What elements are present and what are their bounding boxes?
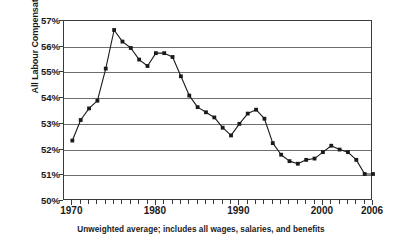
x-tick-label: 1980	[144, 205, 166, 216]
x-tick-mark	[96, 200, 97, 204]
x-tick-mark	[105, 200, 106, 204]
plot-area	[63, 20, 372, 200]
y-tick-label: 50%	[41, 195, 60, 206]
data-point-marker	[346, 150, 350, 154]
x-tick-mark	[288, 200, 289, 204]
x-tick-mark	[355, 200, 356, 204]
data-point-marker	[154, 51, 158, 55]
chart-figure: All Labour Compensation (% GDP) 57%56%55…	[0, 0, 402, 248]
data-point-marker	[146, 64, 150, 68]
x-tick-mark	[364, 200, 365, 204]
x-tick-mark	[180, 200, 181, 204]
x-tick-mark	[188, 200, 189, 204]
data-point-marker	[70, 139, 74, 143]
data-point-marker	[288, 159, 292, 163]
y-tick-label: 54%	[41, 92, 60, 103]
x-tick-mark	[305, 200, 306, 204]
data-series-line	[64, 21, 373, 201]
x-tick-mark	[330, 200, 331, 204]
data-point-marker	[304, 158, 308, 162]
data-point-marker	[179, 74, 183, 78]
x-tick-mark	[80, 200, 81, 204]
x-tick-mark	[263, 200, 264, 204]
x-tick-mark	[138, 200, 139, 204]
x-tick-mark	[213, 200, 214, 204]
data-point-marker	[229, 134, 233, 138]
x-tick-mark	[163, 200, 164, 204]
data-point-marker	[196, 105, 200, 109]
y-axis-title: All Labour Compensation (% GDP)	[28, 0, 42, 114]
data-point-marker	[171, 55, 175, 59]
x-tick-label: 2000	[311, 205, 333, 216]
x-tick-mark	[255, 200, 256, 204]
data-point-marker	[313, 157, 317, 161]
x-tick-label: 1970	[60, 205, 82, 216]
data-point-marker	[162, 51, 166, 55]
data-point-marker	[221, 126, 225, 130]
data-point-marker	[354, 158, 358, 162]
data-point-marker	[338, 148, 342, 152]
series-path	[72, 30, 373, 174]
data-point-marker	[87, 107, 91, 111]
x-tick-mark	[130, 200, 131, 204]
x-tick-mark	[172, 200, 173, 204]
chart-caption: Unweighted average; includes all wages, …	[0, 225, 402, 234]
data-point-marker	[321, 150, 325, 154]
data-point-marker	[137, 58, 141, 62]
x-tick-mark	[297, 200, 298, 204]
x-tick-mark	[314, 200, 315, 204]
x-tick-mark	[280, 200, 281, 204]
y-tick-label: 53%	[41, 117, 60, 128]
y-tick-label: 56%	[41, 40, 60, 51]
x-tick-mark	[247, 200, 248, 204]
x-tick-mark	[113, 200, 114, 204]
x-tick-label: 2006	[361, 205, 383, 216]
data-point-marker	[212, 116, 216, 120]
y-tick-label: 55%	[41, 66, 60, 77]
x-tick-label: 1990	[227, 205, 249, 216]
x-tick-mark	[121, 200, 122, 204]
data-point-marker	[79, 118, 83, 122]
data-point-marker	[271, 141, 275, 145]
x-tick-mark	[88, 200, 89, 204]
data-point-marker	[104, 67, 108, 71]
data-point-marker	[237, 122, 241, 126]
y-tick-label: 51%	[41, 169, 60, 180]
x-tick-mark	[230, 200, 231, 204]
x-tick-mark	[347, 200, 348, 204]
y-tick-label: 57%	[41, 15, 60, 26]
data-point-marker	[204, 110, 208, 114]
x-tick-mark	[339, 200, 340, 204]
data-point-marker	[263, 117, 267, 121]
data-point-marker	[363, 172, 367, 176]
data-point-marker	[329, 144, 333, 148]
x-tick-mark	[222, 200, 223, 204]
data-point-marker	[121, 40, 125, 44]
x-tick-mark	[197, 200, 198, 204]
y-tick-label: 52%	[41, 143, 60, 154]
data-point-marker	[112, 28, 116, 32]
x-tick-mark	[147, 200, 148, 204]
data-point-marker	[96, 99, 100, 103]
data-point-marker	[371, 172, 375, 176]
x-tick-mark	[272, 200, 273, 204]
x-tick-mark	[205, 200, 206, 204]
y-tick-mark	[59, 200, 63, 201]
data-point-marker	[129, 46, 133, 50]
data-point-marker	[246, 112, 250, 116]
data-point-marker	[254, 108, 258, 112]
data-point-marker	[279, 153, 283, 157]
data-point-marker	[296, 162, 300, 166]
data-point-marker	[187, 94, 191, 98]
